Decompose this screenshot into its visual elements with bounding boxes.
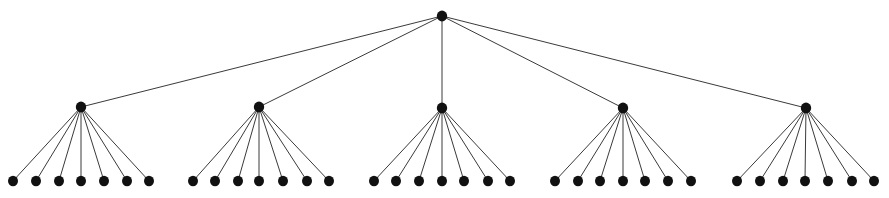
tree-node-leaf[interactable] — [302, 176, 312, 187]
tree-node-leaf[interactable] — [800, 176, 810, 187]
tree-node-leaf[interactable] — [414, 176, 424, 187]
tree-node-leaf[interactable] — [483, 176, 493, 187]
tree-node-leaf[interactable] — [31, 176, 41, 187]
tree-node-leaf[interactable] — [573, 176, 583, 187]
tree-node-leaf[interactable] — [391, 176, 401, 187]
tree-node-leaf[interactable] — [755, 176, 765, 187]
tree-node-leaf[interactable] — [618, 176, 628, 187]
tree-node-leaf[interactable] — [54, 176, 64, 187]
tree-node-leaf[interactable] — [847, 176, 857, 187]
tree-node-leaf[interactable] — [122, 176, 132, 187]
tree-node-leaf[interactable] — [823, 176, 833, 187]
tree-node-branch[interactable] — [801, 103, 811, 114]
tree-node-branch[interactable] — [254, 102, 264, 113]
tree-node-leaf[interactable] — [550, 176, 560, 187]
tree-node-leaf[interactable] — [188, 176, 198, 187]
tree-diagram-svg — [0, 0, 889, 198]
tree-node-branch[interactable] — [76, 102, 86, 113]
tree-node-leaf[interactable] — [210, 176, 220, 187]
tree-node-root[interactable] — [437, 11, 447, 22]
tree-node-leaf[interactable] — [459, 176, 469, 187]
tree-node-leaf[interactable] — [369, 176, 379, 187]
tree-node-leaf[interactable] — [278, 176, 288, 187]
tree-node-leaf[interactable] — [437, 176, 447, 187]
tree-node-leaf[interactable] — [233, 176, 243, 187]
tree-node-leaf[interactable] — [505, 176, 515, 187]
tree-node-leaf[interactable] — [144, 176, 154, 187]
tree-node-leaf[interactable] — [686, 176, 696, 187]
tree-node-leaf[interactable] — [732, 176, 742, 187]
tree-node-leaf[interactable] — [640, 176, 650, 187]
tree-node-leaf[interactable] — [324, 176, 334, 187]
tree-node-branch[interactable] — [618, 103, 628, 114]
tree-node-leaf[interactable] — [254, 176, 264, 187]
tree-node-leaf[interactable] — [99, 176, 109, 187]
tree-node-leaf[interactable] — [76, 176, 86, 187]
tree-node-leaf[interactable] — [8, 176, 18, 187]
tree-node-leaf[interactable] — [595, 176, 605, 187]
tree-node-leaf[interactable] — [778, 176, 788, 187]
tree-node-leaf[interactable] — [663, 176, 673, 187]
tree-node-leaf[interactable] — [869, 176, 879, 187]
tree-node-branch[interactable] — [437, 103, 447, 114]
diagram-background — [0, 0, 889, 198]
tree-diagram-canvas — [0, 0, 889, 198]
